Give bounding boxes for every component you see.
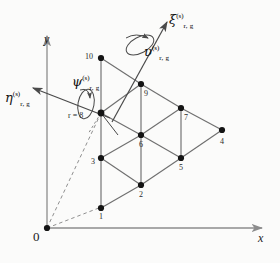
node-label-4: 4 (220, 138, 224, 146)
upsilon-symbol: υ (144, 44, 152, 59)
edge-6-7 (141, 108, 181, 135)
xi-axis-label: ξ(s)r, g (169, 10, 193, 30)
eta-superscript: (s) (13, 90, 20, 98)
x-axis-label: x (258, 232, 263, 244)
node-label-1: 1 (99, 213, 103, 221)
dashed-position-vectors (47, 113, 104, 228)
node-10[interactable] (98, 55, 104, 61)
node-label-3: 3 (91, 158, 95, 166)
node-label-10: 10 (85, 53, 93, 61)
upsilon-superscript: (s) (152, 44, 159, 52)
origin-label: 0 (33, 230, 40, 243)
edge-5-4 (181, 130, 222, 158)
eta-axis-label: η(s)r, g (5, 88, 30, 108)
upsilon-subscript: r, g (159, 54, 169, 62)
psi-superscript: (s) (82, 74, 89, 82)
node-6[interactable] (138, 132, 144, 138)
node-3[interactable] (98, 155, 104, 161)
local-axis-dashed-stub (88, 113, 101, 134)
y-axis-label: y (44, 33, 49, 45)
psi-angle-label: ψ(s)r, g (72, 72, 99, 92)
node-label-5: 5 (179, 164, 183, 172)
node-9[interactable] (138, 81, 144, 87)
psi-subscript: r, g (90, 84, 100, 92)
node-1[interactable] (98, 205, 104, 211)
node-label-9: 9 (144, 90, 148, 98)
edge-3-2 (101, 158, 141, 185)
cartesian-axes (47, 36, 262, 228)
local-frame-axes (33, 22, 167, 135)
node-label-2: 2 (139, 191, 143, 199)
reference-node-label: r = 8 (68, 112, 83, 120)
origin-node (44, 225, 50, 231)
node-8[interactable] (98, 110, 105, 117)
dashed-origin-to-node8 (47, 113, 101, 228)
edge-1-2 (101, 185, 141, 208)
eta-symbol: η (5, 90, 13, 105)
lattice-figure (0, 0, 280, 263)
xi-superscript: (s) (176, 12, 183, 20)
eta-subscript: r, g (20, 100, 30, 108)
psi-symbol: ψ (72, 74, 82, 89)
upsilon-axis-label: υ(s)r, g (144, 42, 169, 62)
node-4[interactable] (219, 127, 225, 133)
xi-axis (112, 22, 167, 122)
xi-subscript: r, g (184, 22, 194, 30)
node-5[interactable] (178, 155, 184, 161)
node-label-7: 7 (184, 114, 188, 122)
lattice-edges (101, 58, 222, 208)
edge-6-5 (141, 135, 181, 158)
edge-2-5 (141, 158, 181, 185)
edge-8-9 (101, 84, 141, 113)
edge-3-6 (101, 135, 141, 158)
node-7[interactable] (178, 105, 184, 111)
node-2[interactable] (138, 182, 144, 188)
node-label-6: 6 (139, 141, 143, 149)
